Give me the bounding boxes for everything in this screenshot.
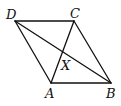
diagonal-db <box>15 21 111 83</box>
label-c: C <box>70 6 80 21</box>
label-b: B <box>105 86 116 101</box>
parallelogram-diagram: D C X A B <box>0 0 121 106</box>
label-a: A <box>44 86 54 101</box>
side-ad <box>15 21 51 83</box>
label-d: D <box>5 7 17 22</box>
label-x: X <box>60 58 71 73</box>
side-cb <box>74 21 111 83</box>
